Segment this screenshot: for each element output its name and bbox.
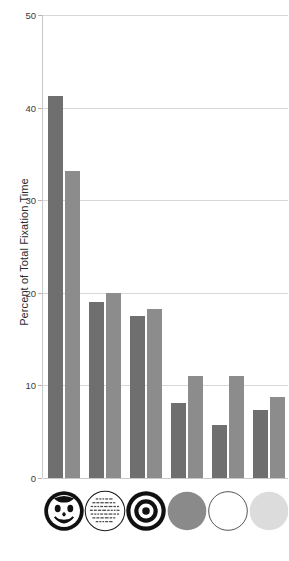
bar-face-series-a <box>48 96 63 478</box>
gray-circle-icon <box>166 488 208 534</box>
bar-group-white-circle <box>212 15 244 478</box>
bar-chart: Percent of Total Fixation Time 010203040… <box>0 0 288 561</box>
bar-text-circle-series-a <box>89 302 104 478</box>
bar-light-gray-circle-series-b <box>270 397 285 478</box>
bar-text-circle-series-b <box>106 293 121 478</box>
bar-white-circle-series-a <box>212 425 227 478</box>
bar-bullseye-series-b <box>147 309 162 478</box>
y-tick-label-0: 0 <box>6 473 36 484</box>
light-gray-circle-icon <box>248 488 289 534</box>
bars-layer <box>42 15 288 478</box>
text-circle-icon <box>84 488 126 534</box>
white-circle-icon <box>207 488 249 534</box>
smiley-face-icon <box>43 488 85 534</box>
bar-light-gray-circle-series-a <box>253 410 268 478</box>
bar-group-face <box>48 15 80 478</box>
y-tick-label-10: 10 <box>6 380 36 391</box>
y-tick-label-50: 50 <box>6 10 36 21</box>
gridline-0 <box>43 478 288 479</box>
y-tick-mark-0 <box>38 478 42 479</box>
bullseye-icon <box>125 488 167 534</box>
bar-group-gray-circle <box>171 15 203 478</box>
bar-group-bullseye <box>130 15 162 478</box>
y-tick-label-20: 20 <box>6 287 36 298</box>
bar-white-circle-series-b <box>229 376 244 478</box>
bar-bullseye-series-a <box>130 316 145 478</box>
y-tick-label-30: 30 <box>6 195 36 206</box>
bar-group-light-gray-circle <box>253 15 285 478</box>
bar-group-text-circle <box>89 15 121 478</box>
category-icons-row <box>42 488 288 546</box>
y-tick-label-40: 40 <box>6 102 36 113</box>
bar-face-series-b <box>65 171 80 478</box>
y-axis-title: Percent of Total Fixation Time <box>18 142 30 362</box>
bar-gray-circle-series-b <box>188 376 203 478</box>
bar-gray-circle-series-a <box>171 403 186 478</box>
